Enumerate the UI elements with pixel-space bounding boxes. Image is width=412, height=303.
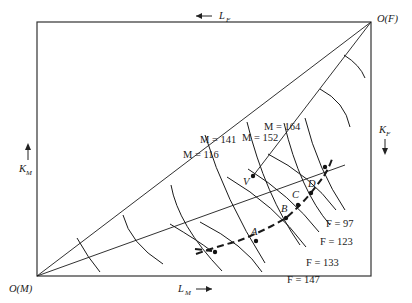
label-b: B: [281, 203, 288, 214]
point-v: [251, 174, 255, 178]
label-f-97: F = 97: [326, 218, 354, 229]
svg-text:L: L: [177, 283, 184, 294]
origin-f-label: O(F): [377, 13, 398, 25]
label-m-164: M = 164: [264, 121, 301, 132]
label-a: A: [250, 226, 258, 237]
label-f-123: F = 123: [320, 236, 353, 247]
svg-text:L: L: [218, 10, 225, 21]
f-isoquant-lower: [170, 224, 210, 250]
point-c: [296, 203, 300, 207]
axis-label-km: K M: [18, 143, 33, 177]
label-v: V: [243, 176, 251, 187]
axis-label-kf: K F: [378, 124, 391, 155]
label-d: D: [307, 178, 316, 189]
f-isoquant-top-2: [320, 89, 350, 127]
point-lower: [213, 250, 217, 254]
svg-text:M: M: [184, 289, 192, 297]
svg-text:F: F: [385, 130, 391, 138]
m-isoquant-152b: [284, 123, 330, 225]
label-f-147: F = 147: [287, 274, 320, 285]
contract-curve: [196, 156, 333, 254]
svg-text:M: M: [25, 169, 33, 177]
point-b: [284, 216, 288, 220]
capital-labor-ray: [37, 165, 345, 276]
axis-label-lm: L M: [177, 283, 212, 297]
label-c: C: [292, 189, 300, 200]
f-isoquant-top-1: [344, 55, 365, 78]
label-m-141: M = 141: [200, 134, 236, 145]
point-d: [309, 191, 313, 195]
edgeworth-box-diagram: A B C D V M = 116 M = 141 M = 152 M = 16…: [0, 0, 412, 303]
f-ray: [253, 22, 371, 176]
svg-text:F: F: [225, 16, 231, 24]
label-m-116: M = 116: [183, 149, 219, 160]
m-isoquant-116: [171, 185, 222, 271]
label-m-152: M = 152: [242, 132, 278, 143]
point-a: [254, 239, 258, 243]
m-isoquant-small-2: [123, 215, 163, 264]
origin-m-label: O(M): [9, 283, 33, 295]
label-f-133: F = 133: [306, 257, 339, 268]
point-upper: [323, 165, 327, 169]
f-isoquant-97: [268, 154, 336, 210]
